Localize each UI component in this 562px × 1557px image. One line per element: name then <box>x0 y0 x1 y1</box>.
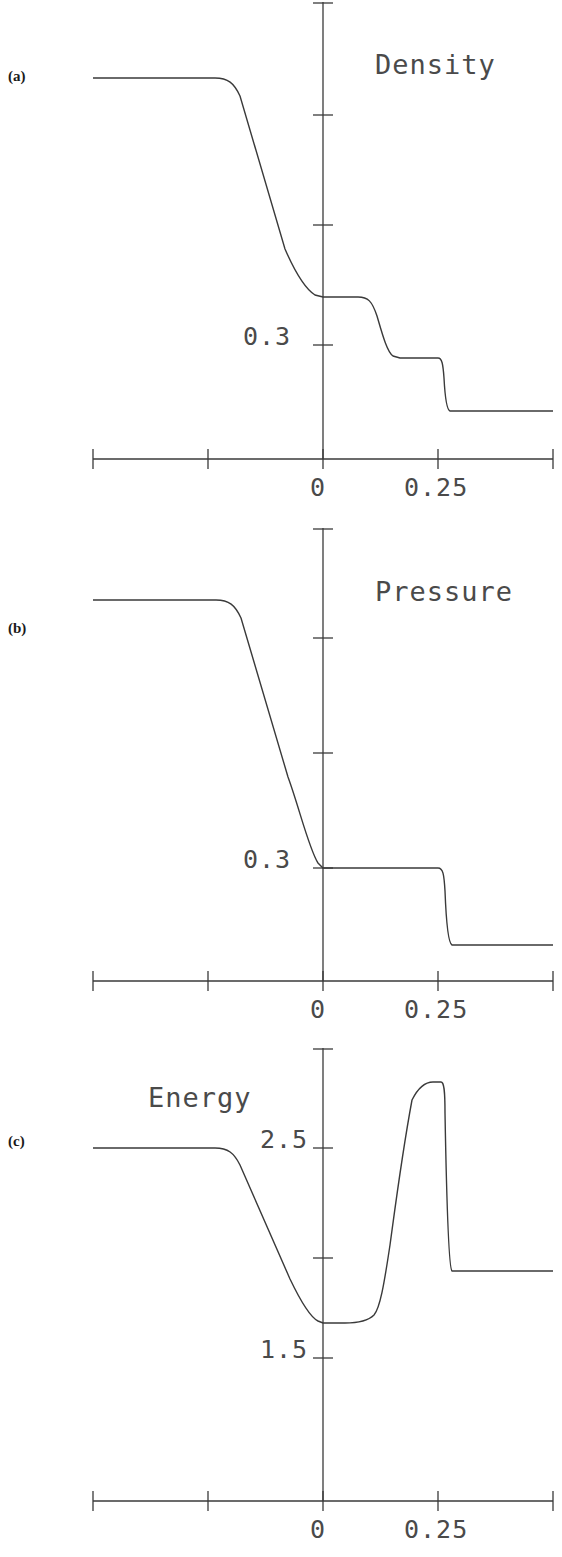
panel-pressure: (b) Pressure 0.3 0 0.25 <box>0 519 562 1038</box>
panel-title-density: Density <box>375 49 496 80</box>
energy-plot-svg <box>0 1038 562 1557</box>
y-axis-group <box>313 528 333 981</box>
y-axis-group <box>313 1048 333 1501</box>
y-tick-label-15: 1.5 <box>260 1335 308 1364</box>
panel-tag-b: (b) <box>8 620 26 637</box>
x-tick-label-0: 0 <box>310 473 326 502</box>
panel-tag-a: (a) <box>8 68 26 85</box>
y-axis-group <box>313 2 333 459</box>
x-tick-label-0: 0 <box>310 1515 326 1544</box>
panel-density: (a) Density 0.3 0 0.25 <box>0 0 562 519</box>
y-tick-label-03: 0.3 <box>243 322 291 351</box>
y-tick-label-25: 2.5 <box>260 1125 308 1154</box>
panel-tag-c: (c) <box>8 1133 25 1150</box>
x-tick-label-025: 0.25 <box>404 995 468 1024</box>
y-tick-label-03: 0.3 <box>243 845 291 874</box>
x-tick-label-025: 0.25 <box>404 473 468 502</box>
panel-title-pressure: Pressure <box>375 576 513 607</box>
panel-title-energy: Energy <box>148 1082 252 1113</box>
x-tick-label-0: 0 <box>310 995 326 1024</box>
panel-energy: (c) Energy 2.5 1.5 0 0.25 <box>0 1038 562 1557</box>
x-tick-label-025: 0.25 <box>404 1515 468 1544</box>
